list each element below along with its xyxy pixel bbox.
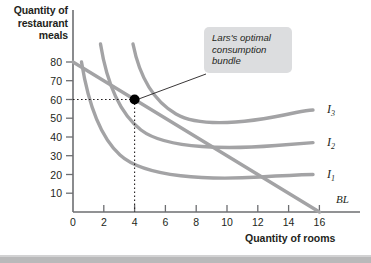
bottom-band (0, 255, 371, 263)
y-tick-50: 50 (40, 112, 62, 124)
y-tick-40: 40 (40, 131, 62, 143)
y-axis-ticks (66, 62, 73, 193)
curve-label-i3: I3 (327, 102, 335, 118)
x-axis-label: Quantity of rooms (245, 232, 335, 244)
x-tick-10: 10 (217, 216, 237, 228)
callout-leader-line (136, 74, 206, 100)
y-tick-20: 20 (40, 169, 62, 181)
y-tick-10: 10 (40, 187, 62, 199)
x-tick-4: 4 (125, 216, 145, 228)
y-tick-80: 80 (40, 56, 62, 68)
optimal-bundle-callout: Lars's optimal consumption bundle (204, 27, 292, 73)
x-tick-8: 8 (186, 216, 206, 228)
y-tick-60: 60 (40, 94, 62, 106)
curve-label-i1: I1 (327, 167, 335, 183)
curve-label-i2: I2 (327, 135, 335, 151)
curve-label-i1-sub: 1 (331, 174, 335, 183)
x-tick-12: 12 (248, 216, 268, 228)
x-tick-2: 2 (94, 216, 114, 228)
x-tick-0: 0 (63, 216, 83, 228)
x-tick-6: 6 (155, 216, 175, 228)
curve-label-bl: BL (336, 193, 349, 205)
x-axis-ticks (104, 205, 320, 212)
y-tick-70: 70 (40, 75, 62, 87)
curve-label-i3-sub: 3 (331, 109, 335, 118)
y-tick-30: 30 (40, 150, 62, 162)
bottom-band-highlight (0, 255, 371, 257)
curve-label-i2-sub: 2 (331, 142, 335, 151)
guide-lines (73, 100, 135, 213)
x-tick-16: 16 (309, 216, 329, 228)
optimal-bundle-point (130, 95, 140, 105)
x-tick-14: 14 (279, 216, 299, 228)
